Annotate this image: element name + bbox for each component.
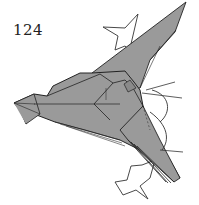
lower-push-arrow [115, 160, 155, 199]
origami-diagram [0, 0, 199, 205]
